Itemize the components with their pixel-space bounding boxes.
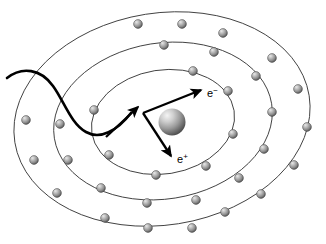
electron-label: e− [207,86,218,99]
electron-sphere [30,156,39,165]
electron-sphere [105,151,114,160]
electron-sphere [202,162,211,171]
electron-sphere [268,54,277,63]
electron-sphere [56,120,65,129]
atom-diagram-svg: e− e+ [0,0,326,244]
electron-sphere [22,116,31,125]
electron-sphere [221,208,230,217]
electron-sphere [160,41,169,50]
electron-sphere [229,130,238,139]
electron-label-superscript: − [213,86,218,95]
electron-sphere [260,145,269,154]
electron-sphere [101,214,110,223]
electron-sphere [90,106,99,115]
electron-sphere [178,20,187,29]
electron-sphere [268,108,277,117]
electron-sphere [188,224,197,233]
positron-label-superscript: + [183,152,188,161]
figure-root: e− e+ [0,0,326,244]
electron-sphere [224,87,233,96]
electron-sphere [257,190,266,199]
electron-sphere [64,156,73,165]
electron-sphere [189,67,198,76]
electron-sphere [210,48,219,57]
nucleus-sphere [159,109,186,136]
electron-sphere [235,174,244,183]
electron-sphere [252,72,261,81]
electron-sphere [134,20,143,29]
electron-sphere [294,85,303,94]
electron-sphere [53,189,62,198]
electron-sphere [97,184,106,193]
electron-sphere [303,123,312,132]
incident-arrow [106,107,138,137]
electron-sphere [152,171,161,180]
incident-photon-trajectory [7,71,131,135]
electron-sphere [144,224,153,233]
electron-sphere [192,196,201,205]
positron-label: e+ [177,152,188,165]
electron-sphere [290,161,299,170]
electron-sphere [219,29,228,38]
electron-sphere [143,199,152,208]
